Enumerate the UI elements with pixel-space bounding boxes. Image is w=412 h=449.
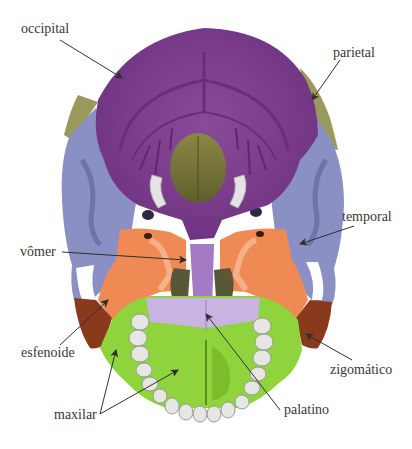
label-vomer: vômer (20, 245, 56, 259)
label-sphenoid: esfenoide (21, 346, 75, 360)
skull-illustration (0, 0, 412, 449)
label-temporal: temporal (342, 210, 392, 224)
label-maxilla: maxilar (54, 408, 97, 422)
label-zygomatic: zigomático (330, 363, 392, 377)
label-palatine: palatino (284, 403, 329, 417)
arrow-parietal (312, 60, 340, 100)
label-occipital: occipital (21, 22, 69, 36)
skull-diagram: occipital parietal vômer temporal esfeno… (0, 0, 412, 449)
label-parietal: parietal (333, 46, 375, 60)
arrow-occipital (60, 40, 122, 78)
